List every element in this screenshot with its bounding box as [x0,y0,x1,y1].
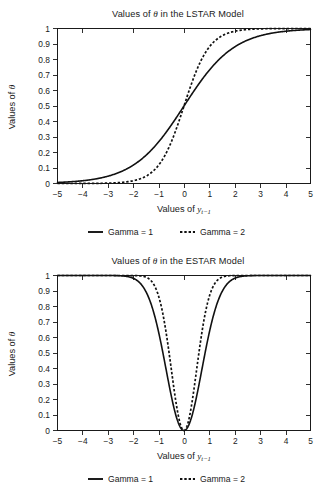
x-tick-label: −4 [78,189,88,199]
x-axis-label-lstar: Values of yt−1 [157,204,211,215]
x-tick-label: −3 [104,436,114,446]
y-axis-label-estar: Values of θ [7,331,17,376]
x-axis-label-prefix: Values of [157,204,197,214]
chart-title-lstar: Values of θ in the LSTAR Model [112,9,244,19]
x-tick-label: 4 [284,436,289,446]
chart-title-estar: Values of θ in the ESTAR Model [112,256,245,266]
y-tick-label: 0.5 [38,101,50,111]
x-tick-label: −4 [78,436,88,446]
x-tick-label: −3 [104,189,114,199]
x-tick-label: 0 [182,189,187,199]
y-tick-label: 0 [45,179,50,189]
legend-lstar: Gamma = 1 Gamma = 2 [88,227,245,237]
t-minus-1-subscript: t−1 [201,455,211,462]
chart-title-lstar-suffix: in the LSTAR Model [158,9,244,19]
x-tick-label: −5 [53,189,63,199]
series-line-gamma-1-lstar [58,30,311,183]
x-tick-label: 2 [233,189,238,199]
t-minus-1-subscript: t−1 [201,208,211,215]
y-tick-label: 0.6 [38,333,50,343]
y-tick-label: 0.6 [38,86,50,96]
y-tick-label: 0.4 [38,117,50,127]
chart-title-estar-suffix: in the ESTAR Model [157,256,244,266]
legend-label-gamma-1: Gamma = 1 [108,227,153,237]
y-tick-label: 0.9 [38,39,50,49]
y-axis-label-prefix: Values of [7,89,17,129]
x-tick-label: 2 [233,436,238,446]
legend-estar: Gamma = 1 Gamma = 2 [88,474,245,484]
x-tick-label: −2 [129,189,139,199]
series-line-gamma-1-estar [58,276,311,431]
x-tick-label: 3 [258,436,263,446]
theta-symbol: θ [7,84,17,89]
plot-frame-estar [58,276,311,431]
x-tick-label: −5 [53,436,63,446]
x-tick-label: −2 [129,436,139,446]
y-axis-ticks-estar [53,276,58,431]
x-axis-tick-labels-estar: −5 −4 −3 −2 −1 0 1 2 3 4 5 [53,436,313,446]
y-tick-label: 0.4 [38,364,50,374]
legend-label-gamma-1: Gamma = 1 [108,474,153,484]
y-tick-label: 0.1 [38,410,50,420]
y-tick-label: 0.3 [38,379,50,389]
x-axis-ticks-estar [83,276,311,436]
y-tick-label: 0.7 [38,70,50,80]
x-tick-label: 1 [208,189,213,199]
x-tick-label: −1 [154,189,164,199]
legend-label-gamma-2: Gamma = 2 [200,227,245,237]
series-line-gamma-2-estar [58,276,311,431]
x-axis-label-estar: Values of yt−1 [157,451,211,462]
y-tick-label: 0.9 [38,286,50,296]
y-axis-tick-labels-lstar: 1 0.9 0.8 0.7 0.6 0.5 0.4 0.3 0.2 0.1 0 [38,24,50,189]
y-tick-label: 0 [45,426,50,436]
x-axis-tick-labels-lstar: −5 −4 −3 −2 −1 0 1 2 3 4 5 [53,189,313,199]
chart-title-estar-prefix: Values of [112,256,153,266]
y-tick-label: 0.8 [38,55,50,65]
y-axis-label-prefix: Values of [7,336,17,376]
x-tick-label: 1 [208,436,213,446]
chart-panel-lstar: Values of θ in the LSTAR Model Values of… [0,0,334,247]
x-tick-label: 5 [308,189,313,199]
figure-root: Values of θ in the LSTAR Model Values of… [0,0,334,494]
x-tick-label: 3 [258,189,263,199]
x-axis-label-prefix: Values of [157,451,197,461]
chart-title-lstar-prefix: Values of [112,9,153,19]
y-tick-label: 0.5 [38,348,50,358]
y-axis-label-lstar: Values of θ [7,84,17,129]
y-tick-label: 0.1 [38,163,50,173]
y-tick-label: 0.2 [38,395,50,405]
y-tick-label: 0.2 [38,148,50,158]
y-axis-ticks-lstar [53,29,58,184]
y-tick-label: 0.3 [38,132,50,142]
legend-label-gamma-2: Gamma = 2 [200,474,245,484]
x-tick-label: 0 [182,436,187,446]
x-tick-label: 4 [284,189,289,199]
theta-symbol: θ [7,331,17,336]
y-axis-tick-labels-estar: 1 0.9 0.8 0.7 0.6 0.5 0.4 0.3 0.2 0.1 0 [38,271,50,436]
y-tick-label: 1 [45,24,50,34]
y-tick-label: 0.8 [38,302,50,312]
x-axis-ticks-lstar [83,29,311,189]
chart-panel-estar: Values of θ in the ESTAR Model Values of… [0,247,334,494]
x-tick-label: 5 [308,436,313,446]
x-tick-label: −1 [154,436,164,446]
y-tick-label: 1 [45,271,50,281]
y-tick-label: 0.7 [38,317,50,327]
